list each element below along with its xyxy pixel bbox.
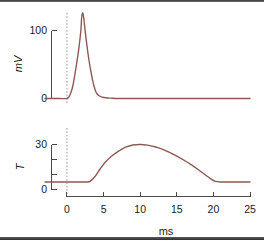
top-y-axis-title: mV xyxy=(12,54,24,72)
x-axis-tick-labels: 0510152025 xyxy=(64,203,256,215)
x-axis-ticks xyxy=(67,192,250,197)
x-axis-tick-label-25: 25 xyxy=(244,203,256,215)
bottom-y-axis-title: T xyxy=(14,162,26,170)
bottom-y-tick-label-0: 0 xyxy=(41,183,47,195)
plot-canvas: 100 0 mV 30 0 T 0510152025 ms xyxy=(0,0,264,242)
action-potential-figure: 100 0 mV 30 0 T 0510152025 ms xyxy=(0,0,264,242)
x-axis: 0510152025 ms xyxy=(64,192,256,238)
x-axis-tick-label-20: 20 xyxy=(208,203,220,215)
bottom-y-tick-label-30: 30 xyxy=(35,138,47,150)
x-axis-tick-label-15: 15 xyxy=(171,203,183,215)
bottom-panel: 30 0 T xyxy=(14,138,250,195)
x-axis-tick-label-5: 5 xyxy=(101,203,107,215)
membrane-potential-trace xyxy=(45,13,250,99)
x-axis-tick-label-0: 0 xyxy=(64,203,70,215)
x-axis-tick-label-10: 10 xyxy=(134,203,146,215)
top-y-tick-label-100: 100 xyxy=(29,24,47,36)
top-panel: 100 0 mV xyxy=(12,13,250,104)
x-axis-title: ms xyxy=(159,225,174,237)
temperature-trace xyxy=(45,144,250,182)
